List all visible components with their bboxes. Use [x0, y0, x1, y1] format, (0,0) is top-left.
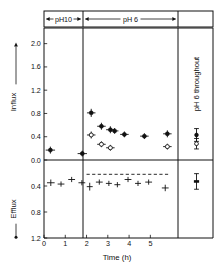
data-point — [135, 181, 141, 186]
data-point — [97, 141, 106, 147]
data-point — [140, 133, 149, 139]
data-point — [120, 131, 129, 137]
marker-filled-circle — [89, 111, 93, 115]
x-tick-label: 4 — [127, 239, 131, 248]
label-layer: Time (h)InfluxEffluxpH 6 throughout — [9, 42, 201, 262]
efflux-tick-label: 1.2 — [31, 234, 41, 243]
data-point — [68, 177, 75, 182]
influx-tick-label: 0.0 — [31, 156, 41, 165]
data-point — [125, 177, 132, 182]
data-point — [87, 109, 96, 117]
data-point — [97, 123, 106, 130]
axes-frame — [44, 11, 213, 238]
influx-arrow-head — [14, 42, 18, 46]
x-tick-label: 0 — [42, 239, 46, 248]
right-panel-label: pH 6 throughout — [192, 56, 201, 111]
influx-tick-label: 2.0 — [31, 39, 41, 48]
series-control-efflux — [194, 174, 199, 190]
influx-axis-title: Influx — [9, 93, 18, 112]
data-point — [145, 180, 152, 185]
series-efflux — [47, 177, 169, 191]
data-layer — [46, 109, 199, 191]
data-point — [78, 180, 85, 185]
tick-layer: 2.01.61.20.80.40.00.40.81.2012345 — [31, 39, 152, 248]
marker-open-circle — [99, 142, 103, 146]
marker-filled-circle — [113, 129, 117, 133]
efflux-arrow-head — [15, 236, 18, 239]
data-point — [58, 181, 65, 186]
efflux-tick-label: 0.4 — [31, 182, 41, 191]
influx-tick-label: 0.4 — [31, 132, 41, 141]
series-control-influx-open — [194, 138, 199, 148]
data-point — [163, 130, 172, 137]
x-axis-title: Time (h) — [103, 253, 132, 262]
data-point — [87, 131, 96, 138]
figure-canvas: 2.01.61.20.80.40.00.40.81.2012345 pH10pH… — [0, 0, 220, 271]
x-tick-label: 1 — [63, 239, 67, 248]
influx-tick-label: 1.2 — [31, 86, 41, 95]
marker-filled-circle — [195, 133, 199, 137]
marker-filled-circle — [165, 132, 169, 136]
data-point — [114, 182, 120, 187]
marker-filled-circle — [80, 152, 84, 156]
marker-filled-circle — [48, 148, 52, 152]
marker-open-circle — [195, 142, 199, 146]
marker-open-circle — [108, 146, 112, 150]
efflux-axis-title: Efflux — [9, 199, 18, 218]
efflux-tick-label: 0.8 — [31, 208, 41, 217]
marker-filled-circle — [122, 132, 126, 136]
data-point — [87, 183, 93, 191]
data-point — [162, 185, 169, 192]
x-tick-label: 5 — [148, 239, 152, 248]
x-tick-label: 3 — [106, 239, 110, 248]
phase-label-ph10: pH10 — [55, 15, 72, 24]
series-influx-open — [87, 131, 172, 150]
phase-label-ph6: pH 6 — [123, 15, 138, 24]
data-point — [106, 145, 115, 151]
data-point — [96, 180, 103, 185]
influx-tick-label: 0.8 — [31, 109, 41, 118]
data-point — [78, 151, 87, 157]
data-point — [47, 180, 55, 187]
marker-open-circle — [165, 145, 169, 149]
marker-filled-circle — [99, 124, 103, 128]
marker-open-circle — [89, 133, 93, 137]
x-tick-label: 2 — [85, 239, 89, 248]
data-point — [46, 147, 55, 154]
annotation-layer: pH10pH 6 — [46, 15, 176, 24]
influx-tick-label: 1.6 — [31, 62, 41, 71]
data-point — [163, 144, 172, 150]
marker-bar — [194, 180, 199, 183]
marker-filled-circle — [142, 134, 146, 138]
data-point — [106, 181, 112, 186]
